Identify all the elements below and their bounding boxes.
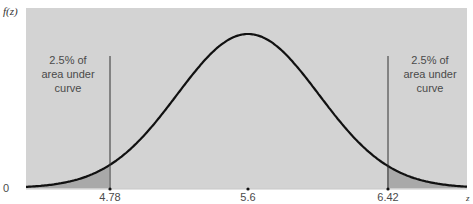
right-annotation-line-2: area under (403, 68, 457, 80)
left-annotation-line-1: 2.5% of (49, 54, 87, 66)
y-axis-label: f(z) (3, 5, 18, 18)
x-axis-label: z (465, 193, 470, 203)
right-annotation-line-3: curve (417, 82, 444, 94)
y-tick-0: 0 (3, 182, 9, 194)
x-tick-upper: 6.42 (377, 191, 398, 203)
plot-area (26, 8, 467, 189)
x-tick-mean: 5.6 (240, 191, 255, 203)
x-tick-lower: 4.78 (99, 191, 120, 203)
normal-distribution-chart: f(z) z 0 4.78 5.6 6.42 2.5% of area unde… (0, 0, 473, 204)
left-annotation-line-3: curve (55, 82, 82, 94)
left-annotation-line-2: area under (41, 68, 95, 80)
right-annotation-line-1: 2.5% of (411, 54, 449, 66)
